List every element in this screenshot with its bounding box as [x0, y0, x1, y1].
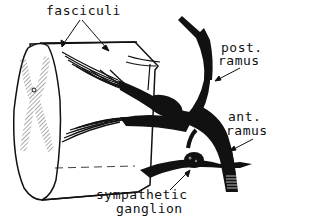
- fasciculi-label: fasciculi: [46, 4, 121, 18]
- post-ramus-label-line2: ramus: [218, 54, 260, 68]
- sympathetic-label-line2: ganglion: [116, 202, 183, 216]
- sympathetic-ganglion: [184, 152, 204, 168]
- sympathetic-label-line1: sympathetic: [96, 188, 188, 202]
- ant-ramus-label-line2: ramus: [226, 124, 268, 138]
- ant-ramus-label-line1: ant.: [228, 110, 261, 124]
- central-canal: [32, 88, 36, 92]
